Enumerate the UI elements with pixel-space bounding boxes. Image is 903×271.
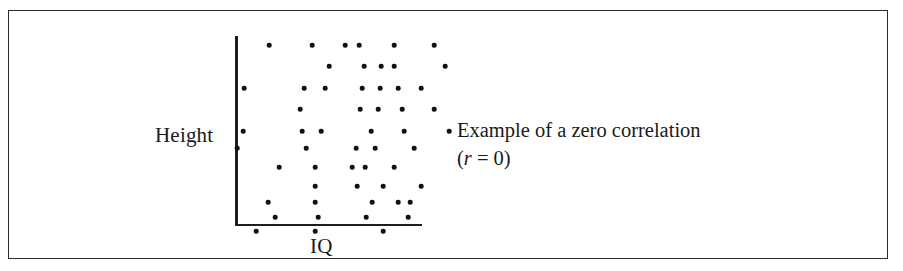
data-point <box>419 184 424 189</box>
data-point <box>392 165 397 170</box>
correlation-variable: r <box>464 147 472 169</box>
data-point <box>350 165 355 170</box>
data-point <box>300 129 305 134</box>
data-point <box>273 215 278 220</box>
data-point <box>277 165 282 170</box>
data-point <box>241 129 246 134</box>
data-point <box>432 43 437 48</box>
y-axis-label: Height <box>155 123 213 148</box>
data-point <box>354 146 359 151</box>
paren-open: ( <box>457 147 464 169</box>
data-point <box>369 129 374 134</box>
data-point <box>319 129 324 134</box>
data-point <box>313 229 318 234</box>
data-point <box>360 86 365 91</box>
data-point <box>357 43 362 48</box>
scatter-plot <box>235 36 423 228</box>
data-point <box>376 107 381 112</box>
data-point <box>381 229 386 234</box>
data-point <box>304 146 309 151</box>
x-axis-label: IQ <box>310 234 333 259</box>
annotation-line-correlation: (r = 0) <box>457 144 787 172</box>
data-point <box>267 43 272 48</box>
x-axis-line <box>235 224 422 227</box>
data-point <box>443 64 448 69</box>
data-point <box>364 215 369 220</box>
data-point <box>242 86 247 91</box>
data-point <box>327 64 332 69</box>
data-point <box>298 107 303 112</box>
figure-border-frame: Height IQ Example of a zero correlation … <box>8 10 888 259</box>
data-point <box>266 200 271 205</box>
y-axis-line <box>235 36 238 226</box>
data-point <box>362 64 367 69</box>
data-point <box>378 86 383 91</box>
data-point <box>406 215 411 220</box>
data-point <box>316 215 321 220</box>
data-point <box>419 86 424 91</box>
data-point <box>396 200 401 205</box>
data-point <box>408 200 413 205</box>
data-point <box>400 107 405 112</box>
data-point <box>432 107 437 112</box>
annotation-line-description: Example of a zero correlation <box>457 116 787 144</box>
data-point <box>381 184 386 189</box>
data-point <box>313 200 318 205</box>
data-point <box>412 146 417 151</box>
annotation-block: Example of a zero correlation (r = 0) <box>457 116 787 172</box>
data-point <box>363 165 368 170</box>
data-point <box>355 184 360 189</box>
data-point <box>392 43 397 48</box>
correlation-value: = 0) <box>472 147 511 169</box>
data-point <box>379 64 384 69</box>
data-point <box>392 64 397 69</box>
data-point <box>370 200 375 205</box>
figure-page: Height IQ Example of a zero correlation … <box>0 0 903 271</box>
data-point <box>343 43 348 48</box>
data-point <box>323 86 328 91</box>
data-point <box>302 86 307 91</box>
data-point <box>310 43 315 48</box>
data-point <box>373 146 378 151</box>
data-point <box>313 165 318 170</box>
data-point <box>447 129 452 134</box>
data-point <box>235 146 240 151</box>
data-point <box>254 229 259 234</box>
data-point <box>402 129 407 134</box>
data-point <box>396 86 401 91</box>
data-point <box>358 107 363 112</box>
data-point <box>313 184 318 189</box>
